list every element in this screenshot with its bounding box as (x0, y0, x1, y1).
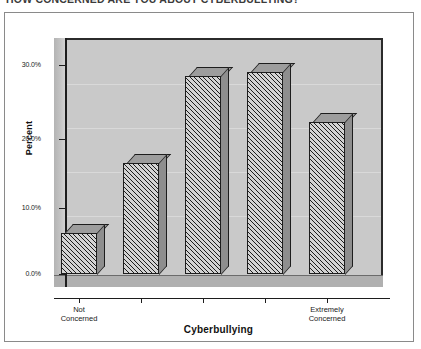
x-label-line-1: Not (73, 305, 85, 314)
bar-front-face (247, 72, 283, 274)
bar-side-face (283, 63, 291, 275)
x-tick-3 (203, 298, 204, 303)
x-tick-5 (327, 298, 328, 303)
x-tick-label-not-concerned: Not Concerned (39, 305, 119, 323)
x-axis-line (54, 298, 390, 299)
y-tick-20 (59, 139, 65, 140)
x-label-line-1: Extremely (310, 305, 343, 314)
x-tick-2 (141, 298, 142, 303)
bar-front-face (123, 163, 159, 274)
x-tick-label-extremely-concerned: Extremely Concerned (287, 305, 367, 323)
bar-side-face (345, 113, 353, 275)
bar-category-4 (247, 53, 283, 274)
y-tick-label-30: 30.0% (22, 61, 41, 68)
bar-not-concerned (61, 174, 97, 274)
figure-caption: HOW CONCERNED ARE YOU ABOUT CYBERBULLYIN… (6, 0, 416, 5)
x-axis-title: Cyberbullying (54, 324, 383, 335)
chart-frame: 0.0% 10.0% 20.0% 30.0% Percent Not Conce… (4, 12, 414, 342)
bar-category-2 (123, 114, 159, 274)
bar-front-face (185, 76, 221, 274)
y-tick-label-10: 10.0% (22, 204, 41, 211)
x-label-line-2: Concerned (61, 314, 98, 323)
bar-side-face (97, 224, 105, 275)
y-tick-0 (59, 274, 65, 275)
bar-category-3 (185, 53, 221, 274)
x-tick-1 (79, 298, 80, 303)
y-axis-title: Percent (24, 108, 34, 168)
bar-front-face (61, 233, 97, 274)
bar-extremely-concerned (309, 75, 345, 274)
bar-side-face (221, 67, 229, 275)
y-tick-label-0: 0.0% (25, 270, 41, 277)
bar-side-face (159, 154, 167, 275)
x-label-line-2: Concerned (309, 314, 346, 323)
bar-front-face (309, 122, 345, 274)
y-tick-30 (59, 65, 65, 66)
x-tick-4 (265, 298, 266, 303)
plot-floor (54, 275, 383, 287)
